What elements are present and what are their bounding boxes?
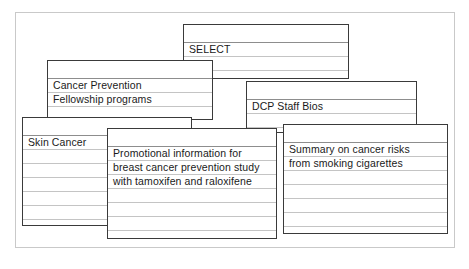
card-rule-line <box>284 226 447 227</box>
card-text-line: SELECT <box>189 42 345 56</box>
card-text-block: Summary on cancer risksfrom smoking ciga… <box>289 142 444 170</box>
card-text-line: Cancer Prevention <box>53 78 209 92</box>
card-text-block: Promotional information forbreast cancer… <box>113 146 273 188</box>
card-rule-line <box>108 216 276 217</box>
card-text-line: breast cancer prevention study <box>113 160 273 174</box>
diagram-canvas: SELECTCancer PreventionFellowship progra… <box>0 0 469 269</box>
card-text-block: SELECT <box>189 42 345 56</box>
card-rule-line <box>247 113 416 114</box>
card-rule-line <box>284 212 447 213</box>
card-rule-line <box>284 184 447 185</box>
card-rule-line <box>108 230 276 231</box>
card-summary-smoking[interactable]: Summary on cancer risksfrom smoking ciga… <box>283 124 448 234</box>
card-rule-line <box>284 170 447 171</box>
card-text-line: Summary on cancer risks <box>289 142 444 156</box>
card-promotional-tamoxifen[interactable]: Promotional information forbreast cancer… <box>107 128 277 239</box>
card-text-line: from smoking cigarettes <box>289 156 444 170</box>
card-text-line: Promotional information for <box>113 146 273 160</box>
card-rule-line <box>108 188 276 189</box>
card-text-line: DCP Staff Bios <box>252 99 413 113</box>
card-rule-line <box>184 56 348 57</box>
card-rule-line <box>284 198 447 199</box>
card-text-block: DCP Staff Bios <box>252 99 413 113</box>
card-rule-line <box>48 106 212 107</box>
card-text-block: Cancer PreventionFellowship programs <box>53 78 209 106</box>
card-text-line: with tamoxifen and raloxifene <box>113 174 273 188</box>
card-cancer-prevention[interactable]: Cancer PreventionFellowship programs <box>47 60 213 120</box>
card-rule-line <box>108 202 276 203</box>
card-text-line: Fellowship programs <box>53 92 209 106</box>
